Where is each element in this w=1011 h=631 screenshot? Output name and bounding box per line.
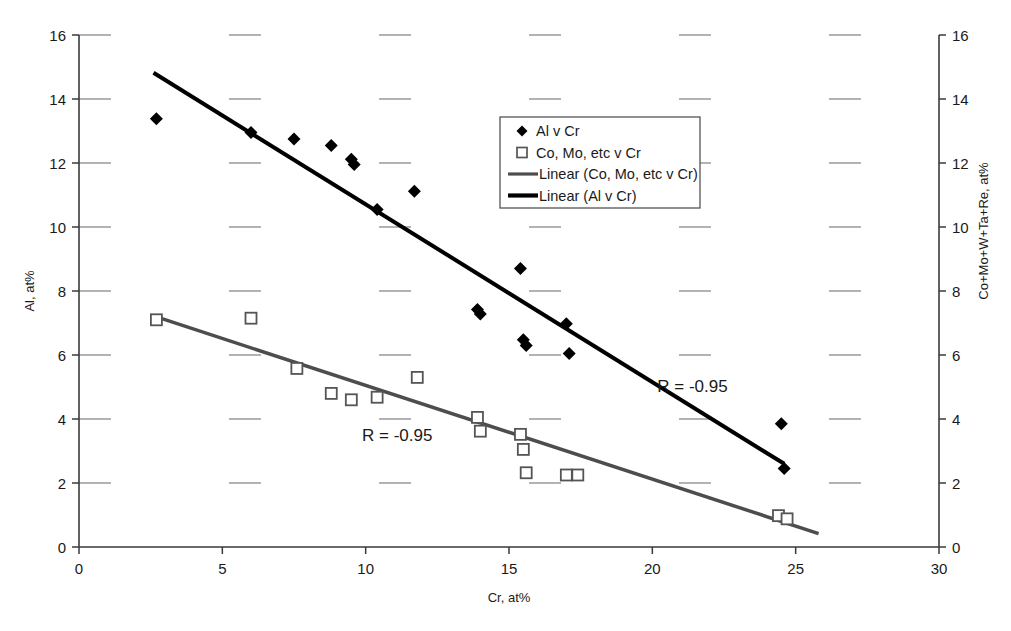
data-point-square: [475, 426, 486, 437]
x-tick-label-0: 0: [75, 560, 83, 577]
x-axis-ticks: 051015202530: [75, 547, 948, 577]
x-tick-label-5: 5: [218, 560, 226, 577]
legend-label-3: Linear (Al v Cr): [539, 188, 637, 204]
y-tick-left-label-12: 12: [49, 155, 66, 172]
data-point-diamond: [408, 185, 421, 198]
r-annotation-1: R = -0.95: [362, 426, 432, 445]
y-tick-left-label-16: 16: [49, 27, 66, 44]
x-tick-label-25: 25: [787, 560, 804, 577]
y-tick-right-label-6: 6: [952, 347, 960, 364]
trendlines: [154, 73, 819, 534]
data-point-square: [561, 470, 572, 481]
x-tick-label-10: 10: [357, 560, 374, 577]
y-axis-right-ticks: 0246810121416: [939, 27, 969, 556]
y-axis-left-title: Al, at%: [22, 270, 37, 312]
y-tick-right-label-12: 12: [952, 155, 969, 172]
data-point-square: [246, 313, 257, 324]
data-point-square: [151, 314, 162, 325]
axis-titles: Cr, at%Al, at%Co+Mo+W+Ta+Re, at%: [22, 162, 991, 605]
y-tick-left-label-8: 8: [58, 283, 66, 300]
legend-label-1: Co, Mo, etc v Cr: [536, 145, 641, 161]
data-point-square: [346, 394, 357, 405]
data-point-square: [572, 470, 583, 481]
y-tick-right-label-2: 2: [952, 475, 960, 492]
data-point-square: [326, 388, 337, 399]
data-point-square: [472, 412, 483, 423]
data-point-diamond: [775, 417, 788, 430]
y-tick-right-label-16: 16: [952, 27, 969, 44]
legend: Al v CrCo, Mo, etc v CrLinear (Co, Mo, e…: [500, 117, 700, 208]
data-point-square: [412, 372, 423, 383]
y-tick-right-label-4: 4: [952, 411, 960, 428]
legend-label-2: Linear (Co, Mo, etc v Cr): [539, 166, 698, 182]
x-tick-label-20: 20: [644, 560, 661, 577]
y-tick-left-label-4: 4: [58, 411, 66, 428]
annotations: R = -0.95R = -0.95: [362, 377, 728, 446]
y-axis-right-title: Co+Mo+W+Ta+Re, at%: [976, 162, 991, 300]
y-tick-right-label-0: 0: [952, 539, 960, 556]
data-point-diamond: [325, 139, 338, 152]
data-point-square: [518, 444, 529, 455]
y-axis-left-ticks: 0246810121416: [49, 27, 79, 556]
y-tick-left-label-2: 2: [58, 475, 66, 492]
y-tick-left-label-0: 0: [58, 539, 66, 556]
y-tick-left-label-10: 10: [49, 219, 66, 236]
data-point-diamond: [514, 262, 527, 275]
legend-marker-square-1: [517, 148, 527, 158]
r-annotation-0: R = -0.95: [657, 377, 727, 396]
data-point-square: [515, 429, 526, 440]
scatter-chart: 05101520253002468101214160246810121416Cr…: [0, 0, 1011, 631]
gridlines: [79, 35, 939, 483]
data-point-diamond: [563, 347, 576, 360]
x-axis-title: Cr, at%: [488, 590, 531, 605]
data-point-square: [521, 467, 532, 478]
data-point-diamond: [778, 462, 791, 475]
y-tick-right-label-10: 10: [952, 219, 969, 236]
data-point-square: [291, 363, 302, 374]
data-point-diamond: [288, 133, 301, 146]
x-tick-label-15: 15: [501, 560, 518, 577]
y-tick-right-label-8: 8: [952, 283, 960, 300]
x-tick-label-30: 30: [931, 560, 948, 577]
data-point-square: [782, 513, 793, 524]
y-tick-left-label-6: 6: [58, 347, 66, 364]
data-point-diamond: [150, 112, 163, 125]
y-tick-left-label-14: 14: [49, 91, 66, 108]
legend-label-0: Al v Cr: [536, 123, 580, 139]
y-tick-right-label-14: 14: [952, 91, 969, 108]
chart-container: 05101520253002468101214160246810121416Cr…: [0, 0, 1011, 631]
data-point-square: [372, 392, 383, 403]
